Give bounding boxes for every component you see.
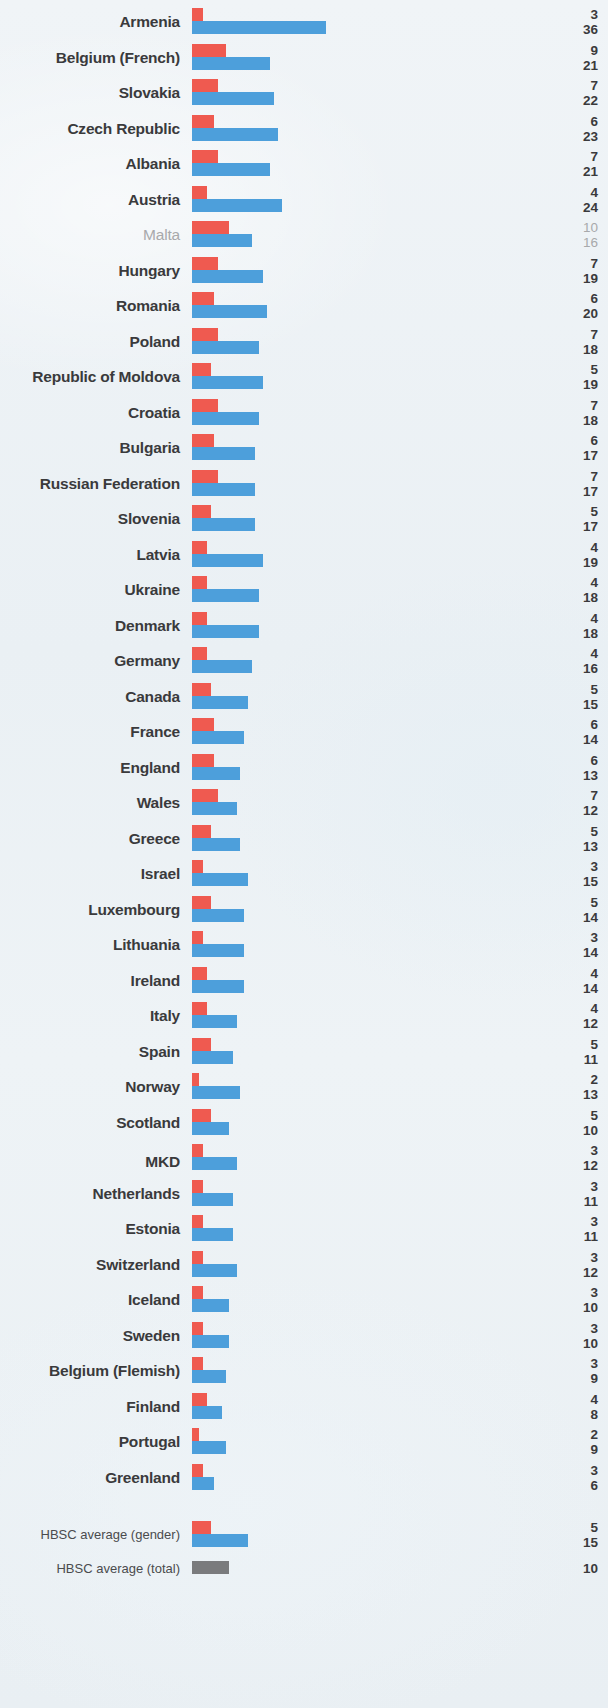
value-girls: 17 <box>558 519 598 534</box>
bar-boys <box>192 931 203 944</box>
horizontal-bar-chart: Armenia336Belgium (French)921Slovakia722… <box>0 0 608 1708</box>
row-bars <box>192 219 592 251</box>
row-values: 311 <box>558 1178 598 1210</box>
bar-boys <box>192 541 207 554</box>
row-values: 416 <box>558 645 598 677</box>
chart-row: Israel315 <box>0 858 608 890</box>
row-values: 717 <box>558 468 598 500</box>
row-bars <box>192 468 592 500</box>
row-label: HBSC average (total) <box>56 1553 180 1585</box>
bar-boys <box>192 718 214 731</box>
row-label: Scotland <box>116 1107 180 1139</box>
bar-girls <box>192 1086 240 1099</box>
value-girls: 14 <box>558 910 598 925</box>
value-boys: 3 <box>558 859 598 874</box>
bar-girls <box>192 163 270 176</box>
bar-girls <box>192 412 259 425</box>
value-girls: 24 <box>558 200 598 215</box>
row-bars <box>192 1107 592 1139</box>
value-girls: 12 <box>558 1016 598 1031</box>
chart-row: Italy412 <box>0 1000 608 1032</box>
bar-boys <box>192 1215 203 1228</box>
row-bars <box>192 397 592 429</box>
bar-boys <box>192 1286 203 1299</box>
row-label: Lithuania <box>113 929 180 961</box>
value-girls: 9 <box>558 1371 598 1386</box>
row-values: 414 <box>558 965 598 997</box>
bar-girls <box>192 1157 237 1170</box>
value-girls: 13 <box>558 839 598 854</box>
row-label: Austria <box>128 184 180 216</box>
row-values: 418 <box>558 574 598 606</box>
value-girls: 16 <box>558 235 598 250</box>
row-values: 39 <box>558 1355 598 1387</box>
row-values: 517 <box>558 503 598 535</box>
bar-boys <box>192 967 207 980</box>
row-label: Poland <box>130 326 180 358</box>
bar-boys <box>192 1251 203 1264</box>
row-values: 511 <box>558 1036 598 1068</box>
bar-boys <box>192 399 218 412</box>
bar-girls <box>192 1015 237 1028</box>
value-girls: 15 <box>558 1535 598 1550</box>
chart-row: Wales712 <box>0 787 608 819</box>
bar-boys <box>192 1038 211 1051</box>
value-boys: 5 <box>558 362 598 377</box>
row-bars <box>192 752 592 784</box>
value-girls: 10 <box>558 1300 598 1315</box>
row-values: 513 <box>558 823 598 855</box>
row-bars <box>192 1426 592 1458</box>
row-values: 718 <box>558 326 598 358</box>
chart-row: Bulgaria617 <box>0 432 608 464</box>
bar-boys <box>192 576 207 589</box>
chart-row: Spain511 <box>0 1036 608 1068</box>
row-bars <box>192 148 592 180</box>
row-label: Iceland <box>128 1284 180 1316</box>
bar-boys <box>192 1322 203 1335</box>
row-label: Luxembourg <box>88 894 180 926</box>
value-boys: 5 <box>558 895 598 910</box>
bar-girls <box>192 696 248 709</box>
bar-girls <box>192 1299 229 1312</box>
bar-girls <box>192 128 278 141</box>
value-girls: 15 <box>558 874 598 889</box>
row-bars <box>192 1178 592 1210</box>
bar-girls <box>192 873 248 886</box>
row-label: Armenia <box>119 6 180 38</box>
row-values: 213 <box>558 1071 598 1103</box>
chart-row: Ukraine418 <box>0 574 608 606</box>
value-girls: 17 <box>558 484 598 499</box>
value-boys: 7 <box>558 78 598 93</box>
row-label: Norway <box>125 1071 180 1103</box>
row-bars <box>192 574 592 606</box>
chart-row: Ireland414 <box>0 965 608 997</box>
bar-boys <box>192 115 214 128</box>
value-boys: 7 <box>558 469 598 484</box>
row-bars <box>192 681 592 713</box>
row-values: 515 <box>558 1519 598 1551</box>
bar-boys <box>192 1393 207 1406</box>
bar-girls <box>192 341 259 354</box>
bar-boys <box>192 363 211 376</box>
chart-row: Armenia336 <box>0 6 608 38</box>
value-boys: 3 <box>558 930 598 945</box>
row-label: Greece <box>129 823 180 855</box>
value-boys: 6 <box>558 433 598 448</box>
row-label: Belgium (French) <box>56 42 180 74</box>
bar-girls <box>192 21 326 34</box>
row-label: Ukraine <box>125 574 180 606</box>
value-girls: 19 <box>558 377 598 392</box>
value-girls: 17 <box>558 448 598 463</box>
row-bars <box>192 42 592 74</box>
row-label: Wales <box>137 787 180 819</box>
value-boys: 5 <box>558 824 598 839</box>
value-girls: 16 <box>558 661 598 676</box>
row-values: 310 <box>558 1320 598 1352</box>
chart-row: Slovakia722 <box>0 77 608 109</box>
bar-boys <box>192 1073 199 1086</box>
bar-girls <box>192 589 259 602</box>
value-boys: 7 <box>558 788 598 803</box>
row-values: 419 <box>558 539 598 571</box>
value-boys: 5 <box>558 1108 598 1123</box>
bar-girls <box>192 731 244 744</box>
